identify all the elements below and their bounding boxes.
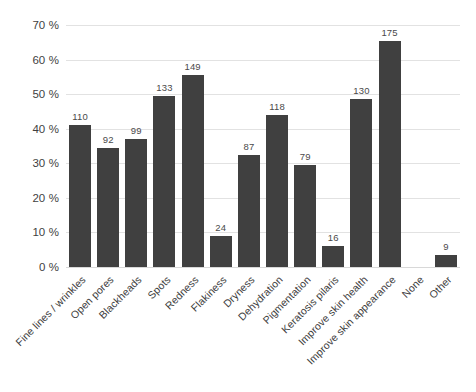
bar[interactable]: 79 bbox=[294, 165, 316, 267]
bar-slot: 24 bbox=[207, 25, 235, 267]
gridline bbox=[66, 267, 460, 268]
bar-value-label: 87 bbox=[243, 141, 254, 152]
y-axis-tick-label: 40 % bbox=[32, 123, 59, 135]
bar[interactable]: 16 bbox=[322, 246, 344, 267]
y-axis-tick-label: 70 % bbox=[32, 19, 59, 31]
y-axis-tick-label: 60 % bbox=[32, 54, 59, 66]
bar[interactable]: 118 bbox=[266, 115, 288, 267]
bar-slot: 79 bbox=[291, 25, 319, 267]
bar-slot: 87 bbox=[235, 25, 263, 267]
bar[interactable]: 24 bbox=[210, 236, 232, 267]
bar-value-label: 133 bbox=[156, 82, 172, 93]
bar-slot: 133 bbox=[150, 25, 178, 267]
bar[interactable]: 99 bbox=[125, 139, 147, 267]
bar-value-label: 99 bbox=[131, 125, 142, 136]
bar[interactable]: 175 bbox=[379, 41, 401, 267]
y-axis-tick-label: 0 % bbox=[39, 261, 59, 273]
bar-slot: 149 bbox=[179, 25, 207, 267]
bar-value-label: 110 bbox=[72, 111, 88, 122]
bar-value-label: 92 bbox=[103, 134, 114, 145]
bar[interactable]: 133 bbox=[153, 96, 175, 267]
bar-value-label: 130 bbox=[353, 85, 369, 96]
bar-slot: 99 bbox=[122, 25, 150, 267]
bar-slot: 0 bbox=[404, 25, 432, 267]
bar[interactable]: 92 bbox=[97, 148, 119, 267]
bar-value-label: 175 bbox=[381, 27, 397, 38]
bar[interactable]: 87 bbox=[238, 155, 260, 267]
y-axis-tick-label: 20 % bbox=[32, 192, 59, 204]
x-axis-category-label: None bbox=[400, 274, 425, 299]
y-axis-tick-label: 10 % bbox=[32, 226, 59, 238]
bar[interactable]: 130 bbox=[350, 99, 372, 267]
bar-slot: 16 bbox=[319, 25, 347, 267]
bar[interactable]: 149 bbox=[182, 75, 204, 267]
bar-value-label: 149 bbox=[184, 61, 200, 72]
x-axis-category-label: Other bbox=[427, 274, 453, 300]
bar-value-label: 79 bbox=[300, 151, 311, 162]
bar[interactable]: 9 bbox=[435, 255, 457, 267]
bar-value-label: 9 bbox=[443, 241, 448, 252]
bar-value-label: 16 bbox=[328, 232, 339, 243]
bar-slot: 9 bbox=[432, 25, 460, 267]
plot-area: 70 %60 %50 %40 %30 %20 %10 %0 % 11092991… bbox=[66, 25, 460, 267]
bar-slot: 110 bbox=[66, 25, 94, 267]
bar-value-label: 24 bbox=[215, 222, 226, 233]
bar-slot: 92 bbox=[94, 25, 122, 267]
bar-slot: 118 bbox=[263, 25, 291, 267]
y-axis-tick-label: 50 % bbox=[32, 88, 59, 100]
bar-slot: 130 bbox=[347, 25, 375, 267]
y-axis-tick-label: 30 % bbox=[32, 157, 59, 169]
bar-chart: 70 %60 %50 %40 %30 %20 %10 %0 % 11092991… bbox=[0, 0, 476, 392]
bar-value-label: 118 bbox=[269, 101, 285, 112]
bar[interactable]: 110 bbox=[69, 125, 91, 267]
x-axis-category-labels: Fine lines / wrinklesOpen poresBlackhead… bbox=[66, 270, 460, 390]
bar-slot: 175 bbox=[376, 25, 404, 267]
bar-series: 11092991331492487118791613017509 bbox=[66, 25, 460, 267]
